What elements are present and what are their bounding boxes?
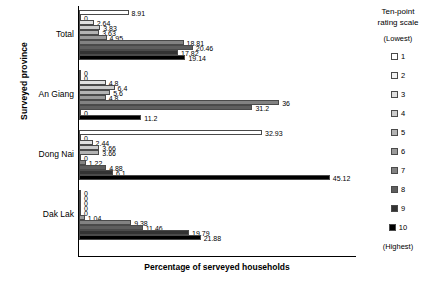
- legend-item-label: 9: [401, 204, 405, 213]
- legend-item-label: 4: [401, 109, 405, 118]
- legend-swatch-icon: [391, 186, 398, 193]
- legend-item-label: 7: [401, 166, 405, 175]
- category-label: An Giang: [14, 89, 74, 99]
- legend-item-label: 10: [399, 223, 407, 232]
- legend-item-10[interactable]: 10: [360, 218, 436, 237]
- bar-row: 45.12: [79, 175, 357, 180]
- category-label: Dak Lak: [14, 209, 74, 219]
- legend-highest-caption: (Highest): [360, 242, 436, 251]
- legend-title: Ten-point rating scale: [360, 6, 436, 28]
- legend-item-label: 5: [401, 128, 405, 137]
- legend-item-8[interactable]: 8: [360, 180, 436, 199]
- legend-swatch-icon: [391, 110, 398, 117]
- bar-group-dak-lak: Dak Lak000001.049.3811.4619.7921.88: [79, 190, 357, 240]
- bar-value-label: 19.14: [188, 54, 206, 61]
- bar-segment[interactable]: [79, 175, 330, 180]
- legend-item-1[interactable]: 1: [360, 47, 436, 66]
- x-axis-title: Percentage of serveyed households: [78, 262, 356, 272]
- legend-item-3[interactable]: 3: [360, 85, 436, 104]
- legend-swatch-icon: [391, 53, 398, 60]
- legend-item-7[interactable]: 7: [360, 161, 436, 180]
- bar-row: 21.88: [79, 235, 357, 240]
- legend-item-list: 12345678910: [360, 47, 436, 237]
- bar-value-label: 11.2: [144, 114, 157, 121]
- legend-swatch-icon: [391, 91, 398, 98]
- bar-row: 19.14: [79, 55, 357, 60]
- legend-swatch-icon: [391, 167, 398, 174]
- legend-swatch-icon: [391, 129, 398, 136]
- bar-group-total: Total8.9102.643.833.634.9518.8120.4617.8…: [79, 10, 357, 60]
- legend-swatch-icon: [391, 72, 398, 79]
- bar-group-an-giang: An Giang004.86.45.64.83631.2011.2: [79, 70, 357, 120]
- legend-item-2[interactable]: 2: [360, 66, 436, 85]
- bar-group-dong-nai: Dong Nai32.9302.443.663.6601.224.886.145…: [79, 130, 357, 180]
- category-label: Dong Nai: [14, 149, 74, 159]
- legend-item-6[interactable]: 6: [360, 142, 436, 161]
- legend-item-label: 1: [401, 52, 405, 61]
- legend-item-4[interactable]: 4: [360, 104, 436, 123]
- legend-swatch-icon: [391, 148, 398, 155]
- bar-row: 11.2: [79, 115, 357, 120]
- bar-value-label: 21.88: [204, 234, 222, 241]
- bar-segment[interactable]: [79, 235, 201, 240]
- legend-item-label: 6: [401, 147, 405, 156]
- legend-item-label: 3: [401, 90, 405, 99]
- chart-container: Surveyed province Total8.9102.643.833.63…: [0, 0, 438, 286]
- legend-title-line2: rating scale: [360, 17, 436, 28]
- legend-item-label: 2: [401, 71, 405, 80]
- legend-item-label: 8: [401, 185, 405, 194]
- legend-item-5[interactable]: 5: [360, 123, 436, 142]
- bar-segment[interactable]: [79, 115, 141, 120]
- legend: Ten-point rating scale (Lowest) 12345678…: [360, 6, 436, 251]
- x-axis-line: [78, 256, 356, 257]
- plot-area: Total8.9102.643.833.634.9518.8120.4617.8…: [78, 6, 357, 256]
- legend-lowest-caption: (Lowest): [360, 34, 436, 43]
- bar-value-label: 45.12: [333, 174, 351, 181]
- legend-item-9[interactable]: 9: [360, 199, 436, 218]
- category-label: Total: [14, 29, 74, 39]
- legend-swatch-icon: [389, 224, 396, 231]
- bar-segment[interactable]: [79, 55, 185, 60]
- legend-swatch-icon: [391, 205, 398, 212]
- legend-title-line1: Ten-point: [360, 6, 436, 17]
